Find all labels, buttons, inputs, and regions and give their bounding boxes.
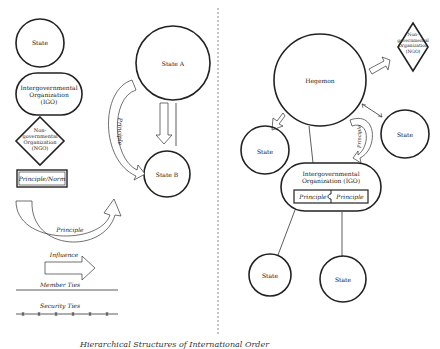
legend-ngo-label: Non- governmental Organization (NGO) [16,127,64,151]
legend-principle-norm-label: Principle/Norm [17,175,67,182]
legend-igo-label: Intergovernmental Organization (IGO) [16,84,82,105]
legend-principle-label: Principle [50,226,90,233]
igo-principle-left: Principle [296,193,330,200]
legend-ngo-line-4: (NGO) [16,145,64,151]
security-tie-hegemon-state [362,104,382,117]
igo-line-1: Intergovernmental [281,170,381,177]
igo-principle-right: Principle [333,193,367,200]
state-b-label: State B [147,171,187,178]
legend-igo-line-3: (IGO) [16,98,82,105]
hegemon-label: Hegemon [295,77,345,84]
state-right-label: State [385,131,425,138]
ngo-label: Non- governmental Organization (NGO) [395,32,431,54]
legend-member-ties-label: Member Ties [30,281,90,288]
legend-security-ties-label: Security Ties [30,302,90,309]
state-left-label: State [245,148,285,155]
legend-influence-arrow [45,256,95,280]
influence-arrow-a-b [156,103,172,144]
igo-label: Intergovernmental Organization (IGO) [281,170,381,184]
ngo-line-3: Organization [395,43,431,49]
legend-state-label: State [20,39,60,46]
state-bottom-right-label: State [323,276,363,283]
figure-caption: Hierarchical Structures of International… [80,340,269,349]
state-bottom-left-label: State [250,272,290,279]
principle-label-right: Principle [356,122,363,152]
legend-influence-label: Influence [44,251,84,258]
legend-igo-line-1: Intergovernmental [16,84,82,91]
member-tie-igo-state-bl [278,210,295,255]
ngo-line-4: (NGO) [395,49,431,55]
influence-arrow-hegemon-ngo [369,57,390,74]
member-tie-hegemon-igo [309,126,313,163]
igo-line-2: Organization (IGO) [281,177,381,184]
principle-arrow-a-b [108,80,145,180]
principle-label-left: Principle [117,112,124,152]
state-a-label: State A [150,60,196,67]
legend-principle-arrow [16,199,121,242]
legend-igo-line-2: Organization [16,91,82,98]
